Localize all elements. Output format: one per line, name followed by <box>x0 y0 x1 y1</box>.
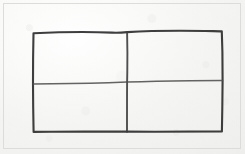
hand-drawn-quadrant-diagram <box>0 0 245 154</box>
screenshot-canvas: A rectangle split into a 2 by 2 grid of … <box>0 0 245 154</box>
top-right-cell <box>128 32 222 81</box>
bottom-left-cell <box>34 84 126 131</box>
bottom-right-cell <box>128 82 222 131</box>
horizontal-divider-left-path <box>33 82 127 84</box>
top-left-cell <box>34 33 126 82</box>
